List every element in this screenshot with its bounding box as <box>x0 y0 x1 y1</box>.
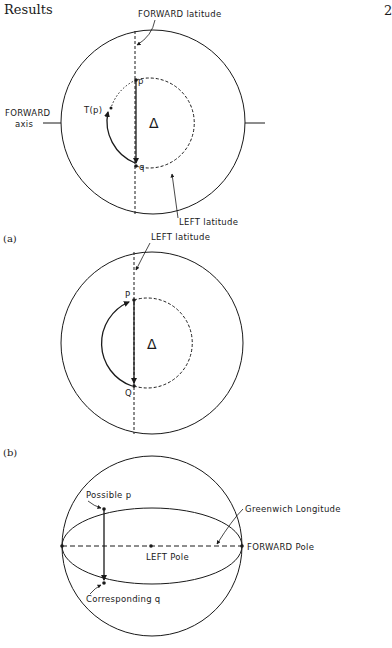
point-tp-dot <box>110 107 113 110</box>
point-q-dot <box>132 384 136 388</box>
left-pole-dot <box>149 544 153 548</box>
left-latitude-label: LEFT latitude <box>179 217 238 227</box>
dashed-inner-arc <box>134 298 192 388</box>
left-pole-label: LEFT Pole <box>146 552 189 562</box>
left-latitude-leader <box>136 243 150 270</box>
figure-c: Possible p Corresponding q LEFT Pole FOR… <box>60 456 341 636</box>
figure-a: p q T(p) Δ FORWARD latitude FORWARD axis… <box>3 9 265 244</box>
point-p-dot <box>132 298 136 302</box>
left-latitude-label: LEFT latitude <box>151 232 210 242</box>
point-q-label: Q <box>125 388 132 398</box>
point-p-label: P <box>125 290 130 300</box>
possible-p-leader <box>88 501 101 508</box>
transform-label: T(p) <box>83 105 102 115</box>
point-q-label: q <box>139 162 145 172</box>
point-p-label: p <box>138 76 144 86</box>
possible-p-dot <box>102 507 106 511</box>
delta-symbol: Δ <box>149 115 159 131</box>
diagram-canvas: p q T(p) Δ FORWARD latitude FORWARD axis… <box>0 0 392 648</box>
solid-transform-arc <box>102 302 132 386</box>
figure-b: P Q Δ LEFT latitude (b) <box>3 232 243 458</box>
possible-p-label: Possible p <box>86 490 131 500</box>
left-latitude-dotted-arc <box>111 80 136 108</box>
caption-b: (b) <box>3 447 17 458</box>
corresponding-q-dot <box>102 581 106 585</box>
corresponding-q-label: Corresponding q <box>86 594 161 604</box>
left-latitude-dashed-arc <box>136 78 194 168</box>
transform-arc <box>107 112 135 163</box>
greenwich-longitude-label: Greenwich Longitude <box>245 504 341 514</box>
left-end-dot <box>60 544 64 548</box>
forward-axis-label: FORWARD <box>5 108 51 118</box>
corresponding-q-leader <box>90 585 101 594</box>
forward-pole-dot <box>240 544 244 548</box>
forward-axis-label-2: axis <box>15 119 34 129</box>
delta-symbol: Δ <box>147 336 157 352</box>
forward-latitude-label: FORWARD latitude <box>138 9 221 19</box>
forward-latitude-leader <box>137 20 155 45</box>
caption-a: (a) <box>3 233 17 244</box>
point-q-dot <box>134 164 138 168</box>
forward-pole-label: FORWARD Pole <box>247 542 314 552</box>
